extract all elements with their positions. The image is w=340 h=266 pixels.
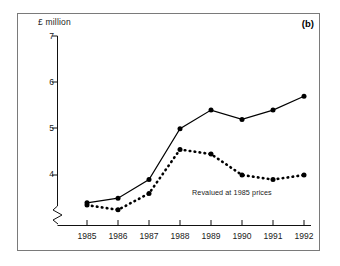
figure-panel: £ million (b) 7 6 5 4 1985 1986 1987 198… xyxy=(0,0,340,266)
data-point xyxy=(178,147,183,152)
data-point xyxy=(178,126,183,131)
data-point xyxy=(302,173,307,178)
data-point xyxy=(209,152,214,157)
data-point xyxy=(147,177,152,182)
series-line-0 xyxy=(87,96,304,203)
data-point xyxy=(116,207,121,212)
data-point xyxy=(271,177,276,182)
data-point xyxy=(209,108,214,113)
data-point xyxy=(240,173,245,178)
data-point xyxy=(147,191,152,196)
y-tick-marks xyxy=(52,36,58,175)
data-point xyxy=(240,117,245,122)
data-point xyxy=(302,94,307,99)
data-point xyxy=(116,196,121,201)
x-tick-marks xyxy=(87,220,304,226)
y-axis-break-icon xyxy=(53,206,62,224)
data-point xyxy=(85,203,90,208)
plot-area xyxy=(0,0,340,266)
data-point xyxy=(271,108,276,113)
